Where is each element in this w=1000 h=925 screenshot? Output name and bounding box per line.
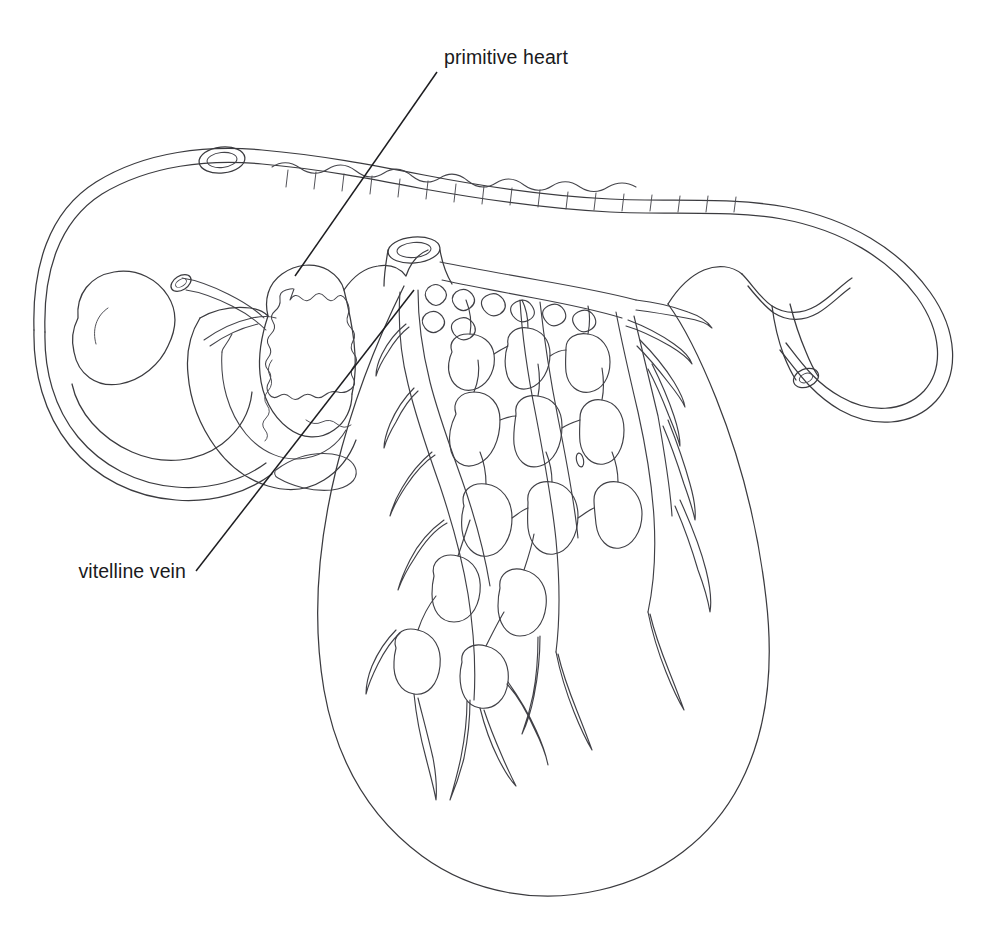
figure-root: primitive heart vitelline vein	[0, 0, 1000, 925]
embryo-diagram-svg: primitive heart vitelline vein	[0, 0, 1000, 925]
optic-stalk	[168, 271, 266, 330]
pericardium-outline	[188, 250, 429, 489]
pharyngeal-branch	[204, 317, 276, 347]
label-primitive-heart: primitive heart	[444, 46, 568, 68]
heart-cavity	[222, 334, 346, 459]
amnion-left-fold	[34, 330, 272, 500]
amnion-outer-contour	[34, 148, 953, 422]
vitelline-plexus-mesh	[394, 285, 642, 709]
head-ventral-pouch	[72, 384, 252, 460]
label-group: primitive heart vitelline vein	[78, 46, 568, 582]
brain-vesicle	[73, 271, 175, 384]
yolk-sac-shoulder	[668, 267, 742, 304]
vessel-stump	[384, 235, 452, 286]
label-vitelline-vein: vitelline vein	[78, 560, 186, 582]
somite-row	[272, 163, 736, 212]
allantois-tube	[742, 274, 852, 391]
leader-lines	[196, 72, 437, 571]
vitelline-plexus-connectors	[418, 300, 618, 646]
leader-vitelline-vein	[196, 290, 414, 571]
